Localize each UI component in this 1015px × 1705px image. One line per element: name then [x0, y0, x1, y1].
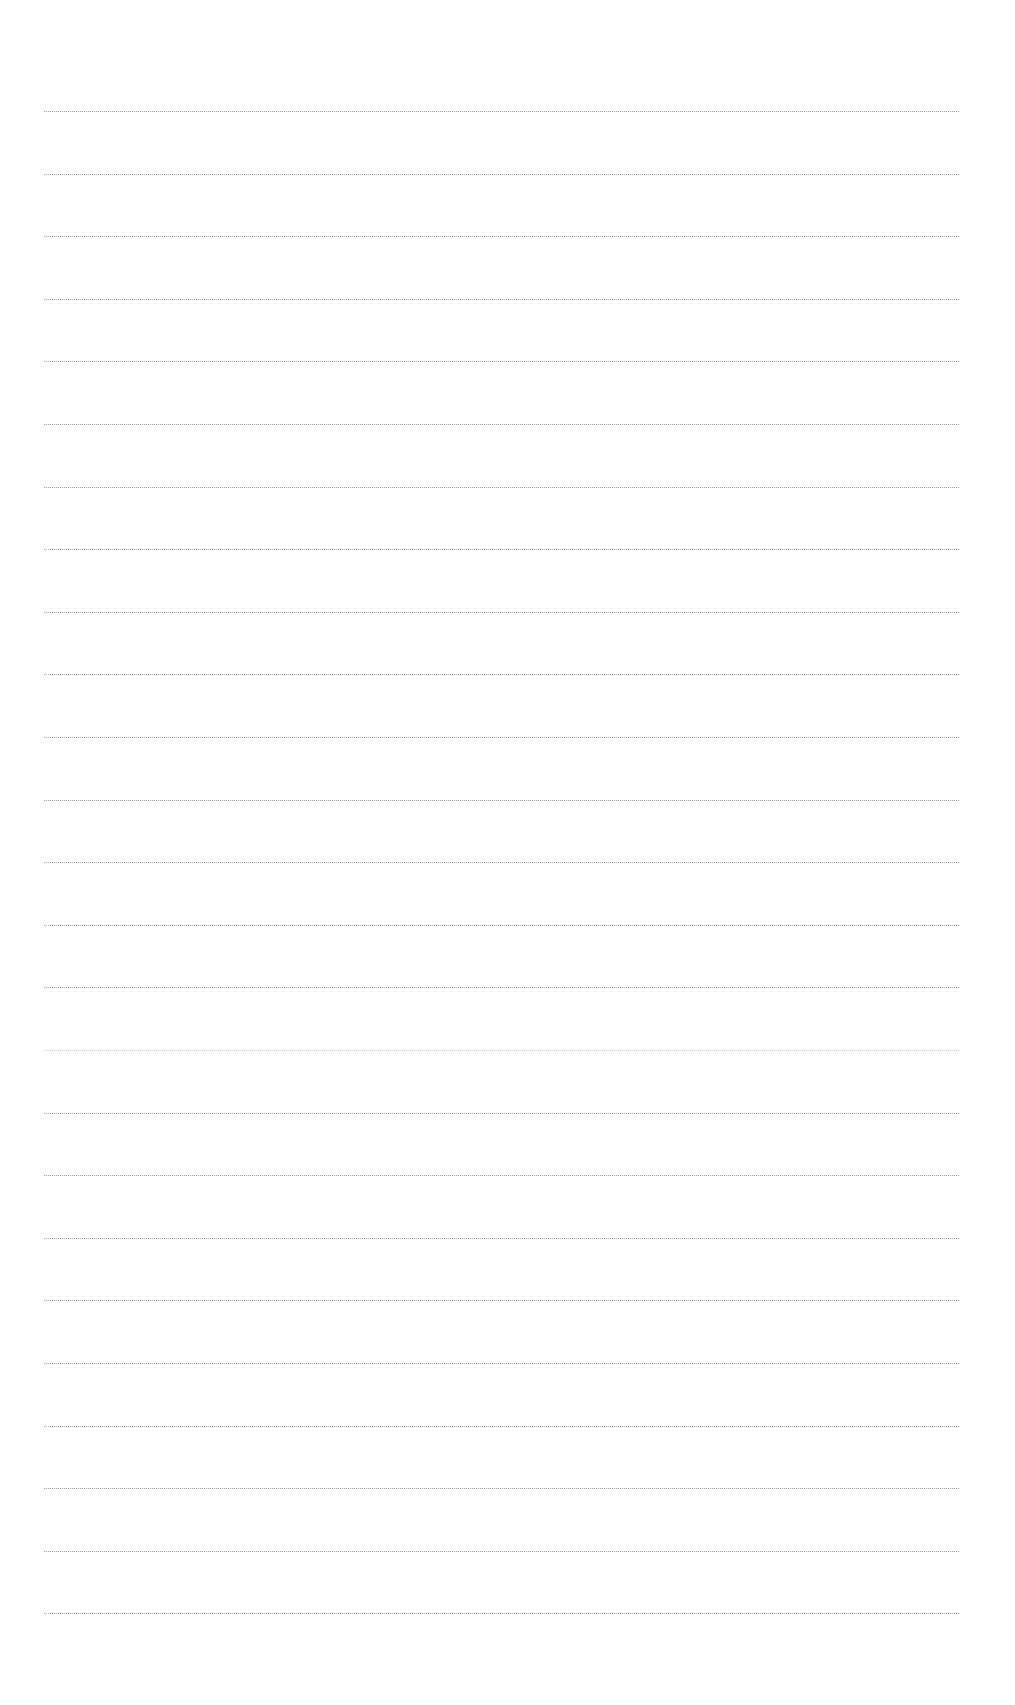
- ruled-line: [44, 236, 959, 237]
- ruled-line: [44, 1426, 959, 1427]
- ruled-line: [44, 862, 959, 863]
- ruled-line: [44, 174, 959, 175]
- ruled-line: [44, 299, 959, 300]
- ruled-line: [44, 1175, 959, 1176]
- ruled-line: [44, 1613, 959, 1614]
- ruled-line: [44, 1238, 959, 1239]
- ruled-line: [44, 1300, 959, 1301]
- ruled-line: [44, 925, 959, 926]
- ruled-line: [44, 674, 959, 675]
- ruled-line: [44, 1363, 959, 1364]
- ruled-line: [44, 1488, 959, 1489]
- ruled-line: [44, 1551, 959, 1552]
- ruled-line: [44, 612, 959, 613]
- ruled-line: [44, 1050, 959, 1051]
- ruled-line: [44, 800, 959, 801]
- ruled-line: [44, 1113, 959, 1114]
- ruled-line: [44, 549, 959, 550]
- lined-paper-page: [0, 0, 1015, 1705]
- ruled-line: [44, 987, 959, 988]
- ruled-line: [44, 487, 959, 488]
- ruled-line: [44, 424, 959, 425]
- ruled-line: [44, 111, 959, 112]
- ruled-line: [44, 361, 959, 362]
- ruled-line: [44, 737, 959, 738]
